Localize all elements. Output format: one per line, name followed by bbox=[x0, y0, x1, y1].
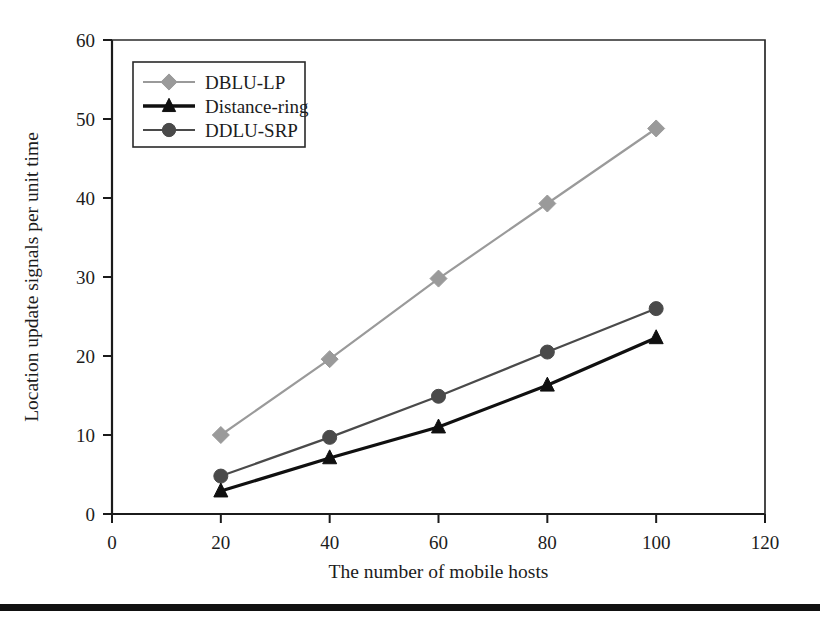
x-tick-label: 60 bbox=[429, 532, 448, 553]
legend: DBLU-LPDistance-ringDDLU-SRP bbox=[133, 62, 309, 147]
x-tick-label: 0 bbox=[107, 532, 117, 553]
y-tick-label: 60 bbox=[76, 30, 95, 51]
y-tick-label: 10 bbox=[76, 425, 95, 446]
data-point-marker bbox=[430, 270, 447, 287]
data-point-marker bbox=[212, 427, 229, 444]
x-tick-label: 40 bbox=[320, 532, 339, 553]
data-point-marker bbox=[214, 469, 228, 483]
x-tick-label: 80 bbox=[538, 532, 557, 553]
data-point-marker bbox=[540, 345, 554, 359]
y-axis-title: Location update signals per unit time bbox=[21, 132, 42, 422]
y-tick-label: 40 bbox=[76, 188, 95, 209]
data-point-marker bbox=[649, 330, 663, 344]
x-axis-title: The number of mobile hosts bbox=[329, 561, 549, 582]
legend-label: DDLU-SRP bbox=[205, 120, 298, 141]
series-distance-ring bbox=[214, 330, 663, 497]
y-tick-label: 20 bbox=[76, 346, 95, 367]
x-tick-label: 100 bbox=[642, 532, 671, 553]
legend-label: DBLU-LP bbox=[205, 72, 285, 93]
y-tick-label: 30 bbox=[76, 267, 95, 288]
series-line bbox=[221, 338, 656, 491]
legend-label: Distance-ring bbox=[205, 96, 309, 117]
data-point-marker bbox=[539, 195, 556, 212]
line-chart-svg: 0204060801001200102030405060The number o… bbox=[0, 0, 820, 600]
figure-container: 0204060801001200102030405060The number o… bbox=[0, 0, 820, 623]
y-tick-label: 50 bbox=[76, 109, 95, 130]
chart-area: 0204060801001200102030405060The number o… bbox=[0, 0, 820, 600]
page-footer-rule bbox=[0, 604, 820, 611]
x-tick-label: 20 bbox=[211, 532, 230, 553]
data-point-marker bbox=[648, 120, 665, 137]
data-point-marker bbox=[432, 389, 446, 403]
data-point-marker bbox=[162, 123, 175, 136]
x-tick-label: 120 bbox=[751, 532, 780, 553]
data-point-marker bbox=[649, 302, 663, 316]
data-point-marker bbox=[323, 430, 337, 444]
data-point-marker bbox=[321, 351, 338, 368]
y-tick-label: 0 bbox=[86, 504, 96, 525]
